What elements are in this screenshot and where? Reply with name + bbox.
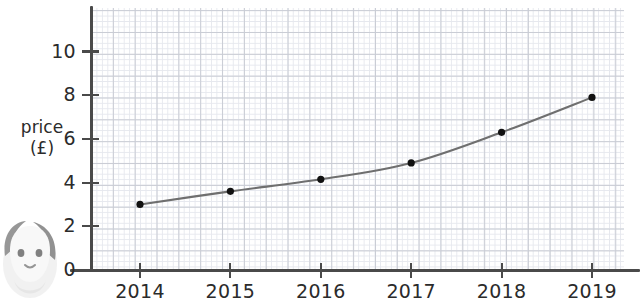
series-layer bbox=[0, 0, 640, 307]
line-chart: 0246810 201420152016201720182019 price (… bbox=[0, 0, 640, 307]
cartoon-character-watermark bbox=[0, 216, 60, 302]
data-point-2017 bbox=[408, 159, 415, 166]
data-point-2014 bbox=[136, 201, 143, 208]
data-point-2019 bbox=[588, 94, 595, 101]
data-point-2015 bbox=[227, 188, 234, 195]
price-line bbox=[140, 97, 592, 204]
data-point-2016 bbox=[317, 176, 324, 183]
data-point-2018 bbox=[498, 129, 505, 136]
price-markers bbox=[136, 94, 595, 208]
